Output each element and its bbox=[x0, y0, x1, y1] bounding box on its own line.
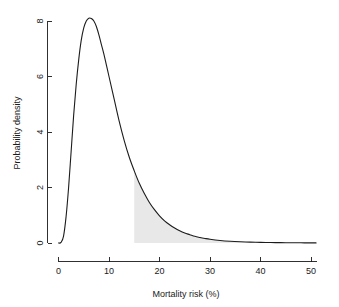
plot-background bbox=[0, 0, 339, 307]
chart-figure: 01020304050 02468 Mortality risk (%) Pro… bbox=[0, 0, 339, 307]
y-tick-label: 6 bbox=[35, 74, 45, 79]
x-tick-label: 30 bbox=[205, 266, 215, 276]
x-tick-label: 0 bbox=[56, 266, 61, 276]
y-tick-label: 2 bbox=[35, 185, 45, 190]
x-tick-label: 40 bbox=[255, 266, 265, 276]
x-tick-label: 20 bbox=[154, 266, 164, 276]
y-axis-title: Probability density bbox=[12, 96, 22, 170]
x-axis-title: Mortality risk (%) bbox=[153, 289, 220, 299]
x-tick-label: 10 bbox=[104, 266, 114, 276]
density-plot: 01020304050 02468 Mortality risk (%) Pro… bbox=[0, 0, 339, 307]
y-tick-label: 0 bbox=[35, 240, 45, 245]
y-tick-label: 4 bbox=[35, 129, 45, 134]
x-tick-label: 50 bbox=[306, 266, 316, 276]
y-tick-label: 8 bbox=[35, 18, 45, 23]
